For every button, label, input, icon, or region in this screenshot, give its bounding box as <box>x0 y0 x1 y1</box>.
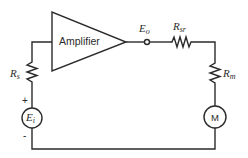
resistor-zigzag-icon <box>210 61 220 85</box>
source-plus-sign: + <box>22 95 28 106</box>
resistor-zigzag-icon <box>170 37 193 47</box>
rm-label: Rm <box>222 67 236 81</box>
source-minus-sign: - <box>23 130 26 141</box>
amplifier-label: Amplifier <box>59 35 100 47</box>
amplifier: Amplifier <box>52 12 126 71</box>
output-terminal: Eo <box>138 22 150 45</box>
meter: M <box>204 106 226 128</box>
circuit-diagram: Amplifier Eo Rsr Rm Rs Ei + - <box>0 0 248 158</box>
wire-rsr-to-rm <box>193 42 215 61</box>
terminal-node-icon <box>145 40 150 45</box>
eo-label: Eo <box>138 22 150 36</box>
meter-label: M <box>211 112 219 123</box>
rsr-label: Rsr <box>172 20 187 34</box>
resistor-zigzag-icon <box>27 59 37 84</box>
wire-bottom-return <box>32 128 215 149</box>
wire-amp-input <box>32 42 52 59</box>
source-resistor: Rs <box>9 59 37 84</box>
series-resistor: Rsr <box>170 20 193 47</box>
rs-label: Rs <box>9 67 20 81</box>
meter-resistor: Rm <box>210 61 236 85</box>
